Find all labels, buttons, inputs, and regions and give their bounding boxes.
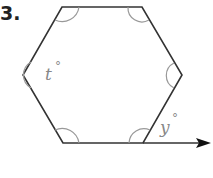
degree-symbol-t: ° [55,59,61,73]
exterior-ray [143,138,211,148]
angle-label-y: y [159,117,170,137]
angle-label-t: t [45,64,52,84]
degree-symbol-y: ° [172,111,178,125]
hexagon-figure: t ° y ° [0,0,213,178]
